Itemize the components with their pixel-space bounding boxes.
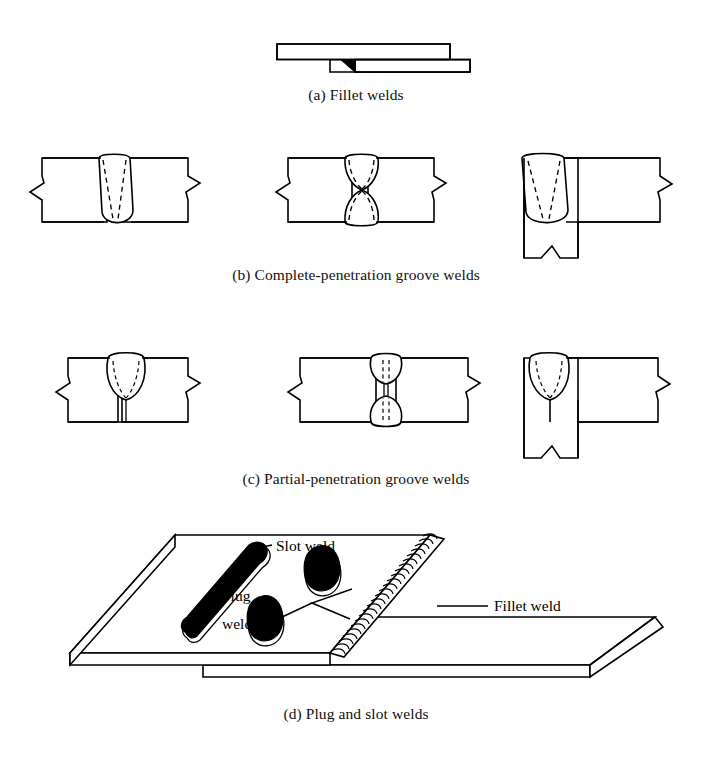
caption-a: (a) Fillet welds [0,86,712,104]
upper-plate [277,44,450,60]
double-v-butt-joint [276,154,446,226]
panel-b-drawing [0,140,712,265]
panel-a-fillet-welds [0,28,712,86]
single-v-butt-joint [30,154,200,222]
panel-c-drawing [0,340,712,460]
panel-b-complete-penetration [0,140,712,265]
caption-d: (d) Plug and slot welds [0,705,712,723]
panel-c-partial-penetration [0,340,712,460]
single-v-partial-butt-joint [56,353,200,422]
slot-weld-label: Slot weld [276,537,335,554]
caption-b: (b) Complete-penetration groove welds [0,266,712,284]
caption-c: (c) Partial-penetration groove welds [0,470,712,488]
panel-d-drawing: Slot weld Plug welds Fillet weld [0,505,712,700]
plug-welds-label-line1: Plug [222,587,251,604]
weld-types-figure: (a) Fillet welds [0,0,712,757]
double-v-partial-butt-joint [288,354,480,427]
panel-d-plug-slot-welds: Slot weld Plug welds Fillet weld [0,505,712,700]
tee-partial-joint [524,353,670,458]
plug-welds-label-line2: welds [222,615,258,632]
lower-plate-right [355,60,470,73]
tee-joint [522,154,672,259]
panel-a-drawing [0,28,712,86]
fillet-weld-label: Fillet weld [494,597,561,614]
